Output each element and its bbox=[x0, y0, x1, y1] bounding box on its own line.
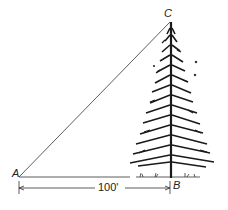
fir-tree-icon bbox=[130, 22, 214, 178]
dimension-line bbox=[19, 181, 170, 194]
hypotenuse-line bbox=[19, 22, 170, 177]
tree-height-diagram: C A B 100' bbox=[0, 0, 228, 210]
ground-icon bbox=[136, 173, 200, 177]
point-a-label: A bbox=[12, 168, 19, 179]
distance-label: 100' bbox=[96, 182, 120, 193]
point-c-label: C bbox=[164, 8, 172, 19]
point-b-label: B bbox=[173, 180, 180, 191]
diagram-drawing bbox=[0, 0, 228, 210]
